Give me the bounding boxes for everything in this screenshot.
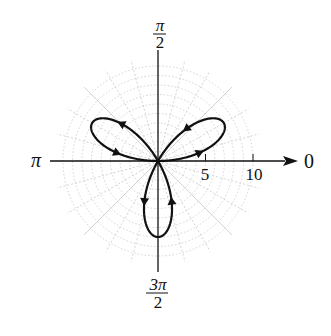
angle-label-pi: π	[31, 149, 42, 171]
grid-ray	[57, 161, 158, 188]
grid-ray	[68, 109, 158, 161]
grid-ray	[131, 60, 158, 161]
angle-label-pi-over-2-denominator: 2	[156, 33, 165, 52]
tick-label-10: 10	[246, 165, 263, 184]
polar-plot: 5 10 0 π π 2 3π 2	[0, 0, 331, 336]
labels: 5 10 0 π π 2 3π 2	[31, 16, 314, 312]
grid-ray	[158, 109, 248, 161]
angle-label-0: 0	[304, 150, 314, 172]
angle-label-3pi-over-2-denominator: 2	[154, 293, 163, 312]
tick-label-5: 5	[201, 165, 210, 184]
angle-label-3pi-over-2-numerator: 3π	[148, 275, 167, 294]
axes	[50, 50, 298, 272]
direction-arrow	[140, 198, 149, 206]
zero-axis-arrowhead	[283, 156, 298, 166]
